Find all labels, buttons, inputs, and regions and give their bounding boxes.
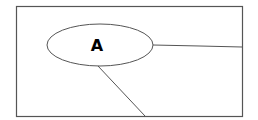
node-a[interactable]: A	[47, 24, 153, 66]
diagram-canvas: A	[0, 0, 258, 120]
edge-a-to-bottom	[98, 66, 145, 116]
edge-a-to-right	[153, 45, 242, 47]
node-a-label: A	[91, 36, 104, 55]
